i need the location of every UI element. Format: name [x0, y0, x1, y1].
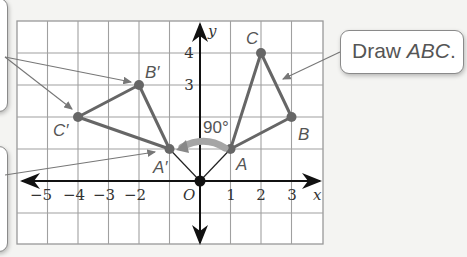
y-tick-3: 3	[184, 76, 194, 94]
x-tick-3: 3	[287, 186, 297, 204]
angle-label: 90°	[203, 118, 229, 137]
x-tick-1: 1	[226, 186, 236, 204]
draw-abc-callout: Draw ABC.	[340, 30, 464, 74]
point-a-prime	[165, 144, 175, 154]
label-a-prime: A′	[152, 158, 168, 177]
y-tick-4: 4	[184, 44, 194, 62]
label-a: A	[235, 155, 247, 174]
origin-label: O	[183, 186, 195, 204]
point-c	[256, 48, 266, 58]
callout-text: Draw ABC.	[352, 39, 456, 63]
x-tick-neg5: −5	[30, 186, 52, 204]
y-axis-label: y	[207, 22, 217, 40]
x-tick-neg4: −4	[63, 186, 85, 204]
point-c-prime	[73, 112, 83, 122]
label-b-prime: B′	[145, 63, 160, 82]
x-tick-neg3: −3	[93, 186, 115, 204]
x-tick-neg2: −2	[124, 186, 146, 204]
x-tick-2: 2	[256, 186, 266, 204]
label-b: B	[298, 125, 309, 144]
label-c-prime: C′	[53, 121, 69, 140]
origin-point	[195, 176, 206, 187]
point-b-prime	[134, 80, 144, 90]
label-c: C	[246, 29, 259, 48]
point-b	[287, 112, 297, 122]
x-axis-label: x	[313, 186, 322, 204]
